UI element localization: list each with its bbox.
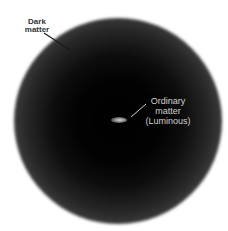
leader-lines	[0, 0, 228, 231]
ordinary-matter-label: Ordinary matter (Luminous)	[143, 96, 193, 126]
dark-matter-leader-line	[44, 33, 70, 50]
ordinary-matter-label-line-2: matter	[143, 106, 193, 116]
dark-matter-label: Dark matter	[20, 18, 54, 34]
dark-matter-label-line-2: matter	[20, 26, 54, 34]
ordinary-matter-label-line-1: Ordinary	[143, 96, 193, 106]
ordinary-matter-label-line-3: (Luminous)	[143, 116, 193, 126]
